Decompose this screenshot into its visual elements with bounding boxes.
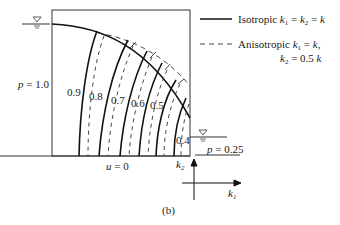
contour-label: 0.4 [176, 134, 190, 146]
anisotropic-surface-ticks [130, 42, 184, 84]
domain-box [52, 10, 190, 156]
legend-isotropic-label: Isotropic k1 = k2 = k [238, 13, 325, 29]
contour-label: 0.9 [67, 86, 81, 98]
contour-label: 0.7 [111, 94, 125, 106]
axis-label-k1: k1 [228, 187, 236, 203]
axis-label-k2: k2 [176, 158, 184, 174]
legend-anisotropic-label-2: k2 = 0.5 k [280, 52, 322, 68]
boundary-label-left: p = 1.0 [18, 78, 49, 90]
contour-label: 0.8 [89, 90, 103, 102]
contour-label: 0.6 [131, 97, 145, 109]
boundary-label-right: p = 0.25 [207, 143, 243, 155]
seepage-diagram [0, 0, 340, 225]
water-level-icon-left [22, 17, 50, 28]
boundary-label-bottom: u = 0 [106, 160, 129, 172]
panel-label: (b) [162, 204, 175, 216]
water-level-icon-right [190, 130, 227, 141]
contour-label: 0.5 [150, 99, 164, 111]
